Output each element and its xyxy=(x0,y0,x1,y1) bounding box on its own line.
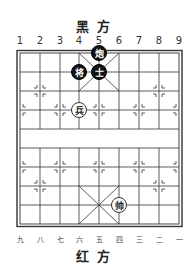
red-general-piece[interactable]: 帅 xyxy=(111,197,127,213)
file-label: 四 xyxy=(112,234,126,244)
file-numbers-bottom: 九 八 七 六 五 四 三 二 一 xyxy=(0,234,193,246)
file-label: 二 xyxy=(152,234,166,244)
file-label: 三 xyxy=(132,234,146,244)
file-label: 八 xyxy=(33,234,47,244)
file-label: 九 xyxy=(13,234,27,244)
file-label: 六 xyxy=(72,234,86,244)
file-label: 五 xyxy=(92,234,106,244)
file-label: 一 xyxy=(172,234,186,244)
xiangqi-board[interactable] xyxy=(0,0,193,273)
black-general-piece[interactable]: 将 xyxy=(71,64,87,80)
black-cannon-piece[interactable]: 炮 xyxy=(91,45,107,61)
file-label: 七 xyxy=(53,234,67,244)
red-side-label: 红方 xyxy=(0,246,193,265)
red-soldier-piece[interactable]: 兵 xyxy=(71,102,87,118)
black-advisor-piece[interactable]: 士 xyxy=(91,64,107,80)
